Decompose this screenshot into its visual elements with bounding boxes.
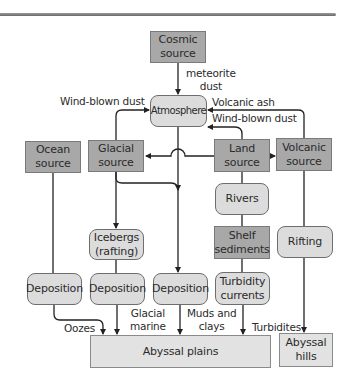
glacial-source-node: Glacial source: [88, 140, 144, 172]
deposition-glacial-node: Deposition: [90, 273, 145, 305]
label-wind-blown-dust-glacial: Wind-blown dust: [60, 95, 145, 108]
cosmic-source-node: Cosmic source: [150, 31, 206, 63]
ocean-source-node: Ocean source: [25, 141, 81, 173]
turbidity-currents-node: Turbidity currents: [215, 272, 270, 305]
abyssal-plains-node: Abyssal plains: [90, 335, 271, 368]
label-glacial-marine: Glacial marine: [130, 307, 166, 333]
shelf-sediments-node: Shelf sediments: [214, 226, 270, 259]
label-oozes: Oozes: [64, 322, 95, 335]
deposition-ocean-node: Deposition: [27, 273, 82, 305]
volcanic-source-node: Volcanic source: [276, 138, 332, 171]
label-muds-and-clays: Muds and clays: [187, 307, 236, 333]
abyssal-hills-node: Abyssal hills: [279, 333, 333, 367]
icebergs-node: Icebergs (rafting): [89, 229, 144, 260]
rivers-node: Rivers: [215, 183, 269, 215]
rifting-node: Rifting: [277, 226, 333, 258]
label-meteorite-dust: meteorite dust: [186, 67, 236, 93]
land-source-node: Land source: [214, 139, 270, 172]
atmosphere-node: Atmosphere: [150, 95, 207, 127]
label-turbidites: Turbidites: [252, 321, 301, 334]
label-wind-blown-dust-land: Wind-blown dust: [212, 112, 297, 125]
label-volcanic-ash: Volcanic ash: [212, 96, 275, 109]
deposition-atmosphere-node: Deposition: [153, 273, 208, 305]
